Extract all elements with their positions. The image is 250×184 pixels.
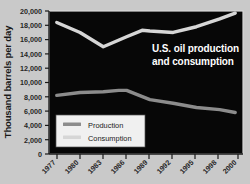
chart-title-line1: U.S. oil production xyxy=(152,43,239,54)
y-tick-label: 16,000 xyxy=(20,35,42,44)
legend: Production Consumption xyxy=(56,115,145,147)
y-tick-label: 6,000 xyxy=(24,107,42,116)
chart-title-line2: and consumption xyxy=(152,56,234,67)
legend-swatch-consumption xyxy=(63,136,81,140)
legend-label-production: Production xyxy=(88,121,123,130)
y-tick-label: 0 xyxy=(38,150,42,159)
legend-label-consumption: Consumption xyxy=(88,134,132,143)
y-tick-label: 18,000 xyxy=(20,21,42,30)
y-tick-label: 20,000 xyxy=(20,7,42,16)
y-tick-label: 4,000 xyxy=(24,121,42,130)
y-tick-label: 10,000 xyxy=(20,78,42,87)
line-chart: 20,000 18,000 16,000 14,000 12,000 10,00… xyxy=(0,0,250,184)
y-tick-label: 8,000 xyxy=(24,93,42,102)
y-tick-labels: 20,000 18,000 16,000 14,000 12,000 10,00… xyxy=(20,7,42,159)
legend-swatch-production xyxy=(63,123,81,127)
y-tick-label: 12,000 xyxy=(20,64,42,73)
y-axis-title: Thousand barrels per day xyxy=(2,25,13,138)
y-axis: 20,000 18,000 16,000 14,000 12,000 10,00… xyxy=(2,7,49,159)
y-tick-label: 14,000 xyxy=(20,50,42,59)
chart-container: 20,000 18,000 16,000 14,000 12,000 10,00… xyxy=(0,0,250,184)
y-tick-label: 2,000 xyxy=(24,136,42,145)
